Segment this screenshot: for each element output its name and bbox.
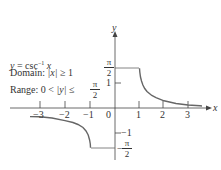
domain-prefix: Domain: bbox=[10, 67, 48, 78]
x-axis-label: x bbox=[213, 103, 217, 113]
frac-num: π bbox=[125, 138, 130, 148]
equation-exponent: −1 bbox=[38, 60, 44, 66]
x-ticks bbox=[40, 101, 188, 108]
y-tick-label: 1 bbox=[106, 78, 111, 88]
x-tick-label: 3 bbox=[185, 110, 190, 120]
x-tick-label: −1 bbox=[83, 110, 94, 120]
y-axis-label: y bbox=[112, 23, 116, 33]
x-tick-label: 2 bbox=[160, 110, 165, 120]
x-tick-label: −3 bbox=[33, 110, 44, 120]
y-tick-label-neg-pi-over-2: π2 bbox=[122, 139, 132, 158]
range-label: Range: 0 < |y| ≤ bbox=[10, 85, 74, 95]
y-tick-label-pi-over-2: π2 bbox=[104, 58, 114, 77]
x-tick-label: −2 bbox=[59, 110, 70, 120]
curve-left-branch bbox=[30, 117, 91, 148]
range-pi-over-2: π2 bbox=[90, 80, 100, 99]
x-tick-label: 1 bbox=[136, 110, 141, 120]
range-prefix: Range: 0 < bbox=[10, 84, 56, 95]
frac-den: 2 bbox=[125, 149, 130, 159]
frac-num: π bbox=[107, 57, 112, 67]
frac-den: 2 bbox=[93, 90, 98, 100]
domain-abs: |x| bbox=[48, 67, 58, 78]
y-tick-label: −1 bbox=[121, 128, 132, 138]
frac-num: π bbox=[93, 79, 98, 89]
domain-rest: ≥ 1 bbox=[57, 67, 73, 78]
range-rest: ≤ bbox=[66, 84, 74, 95]
curve-right-branch bbox=[140, 68, 203, 106]
range-abs: |y| bbox=[56, 84, 66, 95]
x-axis-arrow-icon bbox=[206, 106, 212, 111]
x-tick-label: 0 bbox=[106, 110, 111, 120]
domain-label: Domain: |x| ≥ 1 bbox=[10, 68, 73, 78]
